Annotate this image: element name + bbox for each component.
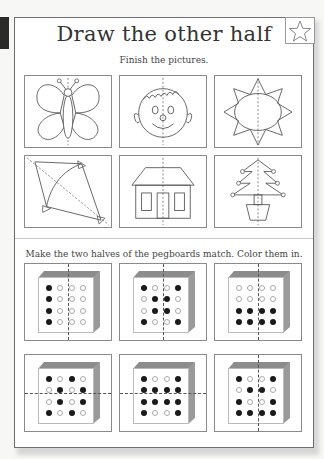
peg-empty[interactable] bbox=[55, 408, 67, 420]
peg-empty[interactable] bbox=[150, 282, 162, 294]
peg-empty[interactable] bbox=[78, 294, 90, 306]
peg-filled[interactable] bbox=[43, 408, 55, 420]
peg-filled[interactable] bbox=[245, 408, 257, 420]
pegboard-face bbox=[228, 368, 284, 424]
peg-filled[interactable] bbox=[138, 282, 150, 294]
peg-filled[interactable] bbox=[138, 373, 150, 385]
peg-filled[interactable] bbox=[233, 373, 245, 385]
face-icon bbox=[120, 76, 206, 147]
page-title: Draw the other half bbox=[15, 22, 313, 46]
peg-filled[interactable] bbox=[138, 385, 150, 397]
peg-filled[interactable] bbox=[138, 408, 150, 420]
kite-icon bbox=[25, 156, 111, 227]
peg-empty[interactable] bbox=[150, 373, 162, 385]
peg-filled[interactable] bbox=[233, 396, 245, 408]
peg-empty[interactable] bbox=[66, 396, 78, 408]
peg-filled[interactable] bbox=[43, 294, 55, 306]
pegboard-face bbox=[133, 277, 189, 333]
peg-filled[interactable] bbox=[233, 408, 245, 420]
peg-empty[interactable] bbox=[78, 305, 90, 317]
peg-empty[interactable] bbox=[78, 282, 90, 294]
peg-filled[interactable] bbox=[150, 396, 162, 408]
peg-filled[interactable] bbox=[245, 317, 257, 329]
peg-empty[interactable] bbox=[173, 294, 185, 306]
pegboard-face bbox=[228, 277, 284, 333]
peg-filled[interactable] bbox=[233, 305, 245, 317]
peg-filled[interactable] bbox=[43, 305, 55, 317]
peg-filled[interactable] bbox=[173, 396, 185, 408]
peg-empty[interactable] bbox=[138, 294, 150, 306]
peg-empty[interactable] bbox=[268, 385, 280, 397]
peg-filled[interactable] bbox=[268, 317, 280, 329]
symmetry-line bbox=[25, 393, 111, 394]
peg-empty[interactable] bbox=[78, 317, 90, 329]
peg-empty[interactable] bbox=[78, 373, 90, 385]
peg-empty[interactable] bbox=[245, 294, 257, 306]
peg-empty[interactable] bbox=[245, 282, 257, 294]
picture-butterfly bbox=[24, 75, 112, 148]
peg-filled[interactable] bbox=[245, 385, 257, 397]
picture-tree bbox=[214, 155, 302, 228]
symmetry-line bbox=[163, 264, 164, 340]
peg-filled[interactable] bbox=[161, 385, 173, 397]
peg-empty[interactable] bbox=[268, 282, 280, 294]
peg-filled[interactable] bbox=[55, 385, 67, 397]
peg-filled[interactable] bbox=[150, 385, 162, 397]
peg-filled[interactable] bbox=[138, 396, 150, 408]
christmas-tree-icon bbox=[215, 156, 301, 227]
peg-filled[interactable] bbox=[43, 317, 55, 329]
peg-filled[interactable] bbox=[66, 373, 78, 385]
peg-filled[interactable] bbox=[268, 305, 280, 317]
peg-filled[interactable] bbox=[161, 396, 173, 408]
peg-empty[interactable] bbox=[233, 294, 245, 306]
peg-filled[interactable] bbox=[150, 305, 162, 317]
peg-empty[interactable] bbox=[55, 282, 67, 294]
peg-filled[interactable] bbox=[268, 396, 280, 408]
peg-empty[interactable] bbox=[66, 385, 78, 397]
peg-empty[interactable] bbox=[268, 294, 280, 306]
peg-empty[interactable] bbox=[55, 317, 67, 329]
peg-filled[interactable] bbox=[173, 317, 185, 329]
peg-filled[interactable] bbox=[55, 396, 67, 408]
peg-filled[interactable] bbox=[78, 385, 90, 397]
peg-empty[interactable] bbox=[43, 385, 55, 397]
peg-filled[interactable] bbox=[173, 373, 185, 385]
peg-filled[interactable] bbox=[268, 373, 280, 385]
peg-filled[interactable] bbox=[245, 305, 257, 317]
peg-empty[interactable] bbox=[233, 385, 245, 397]
pegboard-4 bbox=[24, 354, 112, 432]
peg-empty[interactable] bbox=[55, 305, 67, 317]
board-side-edge bbox=[283, 271, 290, 333]
peg-empty[interactable] bbox=[161, 408, 173, 420]
peg-filled[interactable] bbox=[233, 317, 245, 329]
peg-filled[interactable] bbox=[78, 396, 90, 408]
sun-icon bbox=[215, 76, 301, 147]
house-icon bbox=[120, 156, 206, 227]
peg-filled[interactable] bbox=[138, 317, 150, 329]
peg-empty[interactable] bbox=[161, 373, 173, 385]
peg-empty[interactable] bbox=[43, 396, 55, 408]
peg-filled[interactable] bbox=[173, 408, 185, 420]
peg-filled[interactable] bbox=[268, 408, 280, 420]
peg-empty[interactable] bbox=[245, 373, 257, 385]
worksheet-page: Draw the other half Finish the pictures. bbox=[14, 17, 314, 448]
pegboard-face bbox=[38, 368, 94, 424]
peg-filled[interactable] bbox=[43, 373, 55, 385]
peg-filled[interactable] bbox=[43, 282, 55, 294]
peg-empty[interactable] bbox=[150, 317, 162, 329]
section1-instruction: Finish the pictures. bbox=[15, 55, 313, 65]
peg-empty[interactable] bbox=[55, 373, 67, 385]
peg-empty[interactable] bbox=[78, 408, 90, 420]
peg-filled[interactable] bbox=[173, 385, 185, 397]
star-icon bbox=[288, 20, 312, 42]
peg-empty[interactable] bbox=[233, 282, 245, 294]
peg-empty[interactable] bbox=[138, 305, 150, 317]
peg-empty[interactable] bbox=[150, 408, 162, 420]
peg-empty[interactable] bbox=[55, 294, 67, 306]
peg-filled[interactable] bbox=[173, 282, 185, 294]
peg-filled[interactable] bbox=[66, 408, 78, 420]
peg-empty[interactable] bbox=[173, 305, 185, 317]
pegboard-5 bbox=[119, 354, 207, 432]
peg-empty[interactable] bbox=[245, 396, 257, 408]
peg-filled[interactable] bbox=[150, 294, 162, 306]
